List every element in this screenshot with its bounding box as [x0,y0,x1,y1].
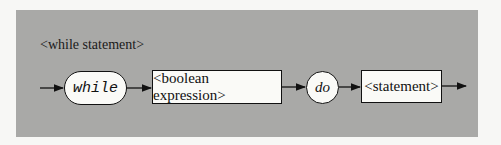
boolean-expression-node: <boolean expression> [152,70,282,104]
do-label: do [315,79,330,96]
do-keyword-node: do [306,71,339,104]
statement-label: <statement> [364,78,438,95]
while-keyword-node: while [64,71,127,105]
statement-node: <statement> [361,70,442,103]
while-label: while [73,80,118,97]
boolean-expression-label: <boolean expression> [153,70,281,104]
